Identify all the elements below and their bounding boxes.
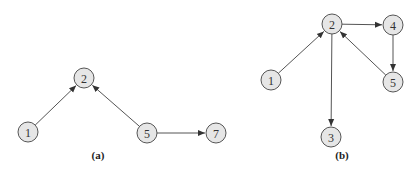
edges-a bbox=[35, 85, 205, 133]
node-3: 3 bbox=[321, 127, 341, 147]
node-label: 4 bbox=[390, 19, 396, 33]
node-5: 5 bbox=[383, 72, 403, 92]
edge-1-to-2 bbox=[35, 86, 76, 126]
node-label: 1 bbox=[268, 74, 274, 88]
edge-5-to-2 bbox=[92, 85, 139, 126]
node-2: 2 bbox=[74, 68, 94, 88]
node-5: 5 bbox=[137, 123, 157, 143]
node-label: 5 bbox=[390, 76, 396, 90]
edge-5-to-2 bbox=[340, 32, 386, 76]
edges-b bbox=[278, 24, 393, 126]
node-7: 7 bbox=[206, 123, 226, 143]
caption-b: (b) bbox=[335, 149, 349, 162]
edge-2-to-4 bbox=[342, 24, 382, 25]
node-label: 7 bbox=[213, 127, 219, 141]
node-1: 1 bbox=[18, 122, 38, 142]
node-label: 5 bbox=[144, 127, 150, 141]
graph-figure: 1257 (a) 12345 (b) bbox=[0, 0, 414, 169]
diagram-a: 1257 (a) bbox=[18, 68, 226, 162]
node-label: 1 bbox=[25, 126, 31, 140]
node-4: 4 bbox=[383, 15, 403, 35]
nodes-b: 12345 bbox=[261, 14, 403, 147]
edge-2-to-3 bbox=[331, 34, 332, 126]
node-label: 3 bbox=[328, 131, 334, 145]
node-label: 2 bbox=[329, 18, 335, 32]
diagram-b: 12345 (b) bbox=[261, 14, 403, 162]
node-1: 1 bbox=[261, 70, 281, 90]
node-2: 2 bbox=[322, 14, 342, 34]
nodes-a: 1257 bbox=[18, 68, 226, 143]
edge-1-to-2 bbox=[278, 31, 324, 73]
node-label: 2 bbox=[81, 72, 87, 86]
caption-a: (a) bbox=[92, 149, 105, 162]
